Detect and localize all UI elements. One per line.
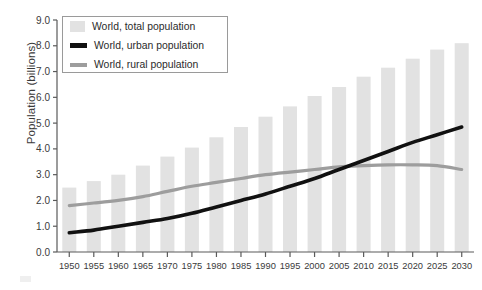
bar-total (160, 157, 174, 252)
legend-label-urban: World, urban population (94, 40, 204, 51)
bar-total (430, 50, 444, 252)
x-tick-label: 1960 (108, 261, 129, 271)
bar-total (62, 188, 76, 252)
scan-artifact (20, 276, 31, 282)
bar-total (87, 181, 101, 252)
x-tick-label: 1975 (182, 261, 203, 271)
x-tick-label: 2010 (353, 261, 374, 271)
legend-item-rural: World, rural population (63, 55, 227, 74)
y-axis-title-text: Population (billions) (25, 42, 37, 144)
bar-total (455, 43, 469, 252)
bar-total (259, 117, 273, 252)
x-tick-label: 1980 (206, 261, 227, 271)
y-tick-label: 2.0 (36, 195, 50, 206)
x-tick-label: 2025 (427, 261, 448, 271)
rural-line-icon (70, 63, 87, 67)
bar-total (406, 59, 420, 252)
legend-item-urban: World, urban population (63, 36, 227, 55)
total-swatch-icon (70, 21, 85, 32)
y-tick-label: 0.0 (36, 247, 50, 258)
bar-total (185, 148, 199, 252)
y-tick-label: 1.0 (36, 221, 50, 232)
x-tick-label: 2015 (378, 261, 399, 271)
urban-line-icon (70, 43, 87, 48)
bar-total (209, 137, 223, 252)
bar-total (136, 166, 150, 252)
chart-legend: World, total population World, urban pop… (62, 16, 228, 73)
bar-total (111, 175, 125, 252)
x-tick-label: 1950 (59, 261, 80, 271)
x-tick-label: 1965 (133, 261, 154, 271)
bar-total (283, 106, 297, 252)
y-axis-title: Population (billions) (21, 18, 39, 168)
x-tick-label: 1970 (157, 261, 178, 271)
x-tick-label: 1990 (255, 261, 276, 271)
x-tick-label: 2030 (451, 261, 472, 271)
x-tick-label: 1985 (231, 261, 252, 271)
legend-label-total: World, total population (92, 21, 195, 32)
x-tick-label: 2000 (304, 261, 325, 271)
bar-total (381, 68, 395, 252)
y-tick-label: 3.0 (36, 169, 50, 180)
x-tick-label: 1995 (280, 261, 301, 271)
legend-item-total: World, total population (63, 17, 227, 36)
bar-total (308, 96, 322, 252)
x-tick-label: 2005 (329, 261, 350, 271)
bar-total (234, 127, 248, 252)
population-chart: 0.01.02.03.04.05.06.07.08.09.01950195519… (0, 0, 482, 290)
legend-label-rural: World, rural population (94, 59, 198, 70)
x-tick-label: 1955 (83, 261, 104, 271)
x-tick-label: 2020 (402, 261, 423, 271)
